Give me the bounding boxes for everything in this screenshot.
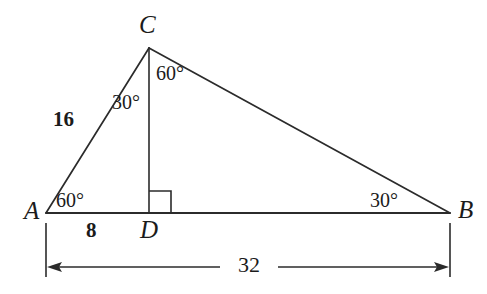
vertex-label-D: D: [140, 217, 158, 242]
dimension-label-AB: 32: [233, 254, 265, 276]
vertex-label-B: B: [458, 197, 473, 222]
angle-label-ACD: 30°: [112, 92, 140, 112]
length-label-AD: 8: [86, 220, 97, 241]
angle-label-at-B: 30°: [370, 190, 398, 210]
vertex-label-C: C: [139, 12, 156, 37]
vertex-label-A: A: [24, 198, 39, 223]
length-label-AC: 16: [53, 109, 74, 130]
right-angle-icon: [149, 191, 171, 213]
segment-CB-line: [149, 48, 450, 213]
geometry-figure: A B C D 60° 30° 60° 30° 16 8 32: [0, 0, 487, 294]
angle-label-DCB: 60°: [156, 63, 184, 83]
angle-label-at-A: 60°: [56, 190, 84, 210]
figure-canvas: [0, 0, 487, 294]
